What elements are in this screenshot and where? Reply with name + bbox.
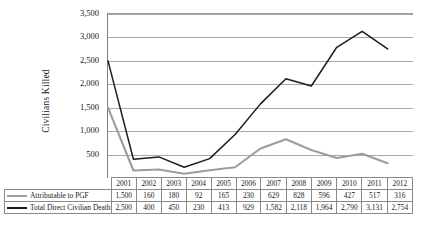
table-cell: 1,964	[311, 202, 336, 214]
table-cell: 400	[136, 202, 161, 214]
data-table: 2001200220032004200520062007200820092010…	[4, 177, 413, 214]
table-cell: 413	[211, 202, 236, 214]
legend-label: Attributable to PGF	[30, 191, 89, 201]
table-header-year: 2008	[286, 178, 311, 190]
table-row: Total Direct Civilian Death2,50040045023…	[5, 202, 413, 214]
table-cell: 2,500	[111, 202, 136, 214]
series-group	[108, 31, 388, 173]
table-cell: 316	[387, 190, 412, 202]
table-cell: 160	[136, 190, 161, 202]
y-axis-title: Civilians Killed	[41, 46, 55, 156]
y-axis-tick-label: 2,500	[80, 56, 99, 64]
table-cell: 828	[286, 190, 311, 202]
table-header-year: 2009	[311, 178, 336, 190]
y-axis-tick-label: 1,500	[80, 103, 99, 111]
table-cell: 3,131	[362, 202, 387, 214]
table-cell: 2,754	[387, 202, 412, 214]
series-lines	[108, 14, 413, 178]
y-axis-tick-label: 2,000	[80, 79, 99, 87]
table-cell: 230	[186, 202, 211, 214]
table-header-year: 2005	[211, 178, 236, 190]
table-header-year: 2012	[387, 178, 412, 190]
table-cell: 517	[362, 190, 387, 202]
table-cell: 165	[211, 190, 236, 202]
y-axis-tick-labels: 3,5003,0002,5002,0001,5001,000500	[60, 0, 102, 180]
table-cell: 1,582	[261, 202, 286, 214]
table-cell: 2,118	[286, 202, 311, 214]
y-axis-tick-label: 1,000	[80, 126, 99, 134]
table-cell: 92	[186, 190, 211, 202]
series-line	[108, 31, 388, 167]
series-line	[108, 108, 388, 174]
table-header-year: 2002	[136, 178, 161, 190]
table-cell: 596	[311, 190, 336, 202]
table-header-year: 2010	[337, 178, 362, 190]
table-row-legend-cell: Total Direct Civilian Death	[5, 202, 112, 214]
table-header-blank-cell	[5, 178, 112, 190]
y-axis-tick-label: 3,000	[80, 32, 99, 40]
table-cell: 929	[236, 202, 261, 214]
gray-line-icon	[7, 195, 27, 197]
table-cell: 629	[261, 190, 286, 202]
plot-area	[107, 13, 413, 178]
table-row-legend-cell: Attributable to PGF	[5, 190, 112, 202]
table-header-year: 2007	[261, 178, 286, 190]
data-table-body: 2001200220032004200520062007200820092010…	[5, 178, 413, 214]
table-cell: 2,790	[337, 202, 362, 214]
table-row: Attributable to PGF1,5001601809216523062…	[5, 190, 413, 202]
table-cell: 1,500	[111, 190, 136, 202]
table-header-year: 2001	[111, 178, 136, 190]
y-axis-tick-label: 500	[86, 150, 99, 158]
table-cell: 450	[161, 202, 186, 214]
chart-figure: Civilians Killed 3,5003,0002,5002,0001,5…	[0, 0, 437, 226]
table-header-year: 2006	[236, 178, 261, 190]
table-header-row: 2001200220032004200520062007200820092010…	[5, 178, 413, 190]
table-header-year: 2011	[362, 178, 387, 190]
table-cell: 230	[236, 190, 261, 202]
legend-label: Total Direct Civilian Death	[30, 203, 111, 213]
table-header-year: 2003	[161, 178, 186, 190]
table-cell: 427	[337, 190, 362, 202]
black-line-icon	[7, 207, 27, 209]
table-header-year: 2004	[186, 178, 211, 190]
y-axis-tick-label: 3,500	[80, 9, 99, 17]
table-cell: 180	[161, 190, 186, 202]
